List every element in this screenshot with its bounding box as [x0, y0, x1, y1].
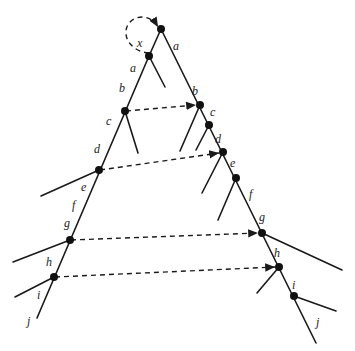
edge-label: h	[274, 246, 280, 260]
edge-label: i	[37, 288, 40, 302]
dashed-arrow	[55, 267, 275, 277]
tree-edge	[149, 29, 161, 56]
edge-label: c	[210, 105, 216, 119]
edge-label: j	[25, 314, 31, 328]
edge-label: i	[292, 278, 295, 292]
edge-label: e	[230, 156, 236, 170]
edge-label: a	[130, 61, 136, 75]
tree-node	[232, 174, 240, 182]
edge-label: f	[72, 198, 77, 212]
tree-edge	[218, 178, 236, 220]
edge-label: g	[259, 210, 265, 224]
tree-node	[145, 52, 153, 60]
diagram-canvas: xaabcdefghijbcdefghij	[0, 0, 355, 351]
tree-node	[95, 166, 103, 174]
tree-node	[290, 292, 298, 300]
tree-edge	[180, 105, 200, 151]
tree-nodes	[50, 25, 298, 300]
tree-node	[205, 121, 213, 129]
edge-label: b	[119, 81, 125, 95]
tree-edge	[257, 267, 279, 293]
edge-label: b	[192, 84, 198, 98]
tree-node	[121, 107, 129, 115]
tree-node	[219, 148, 227, 156]
dashed-arrows	[55, 105, 275, 277]
edge-label: f	[249, 187, 254, 201]
tree-edge	[149, 56, 165, 87]
dashed-arrow	[100, 153, 219, 170]
edge-label: g	[64, 216, 70, 230]
edge-label: h	[46, 255, 52, 269]
tree-node	[157, 25, 165, 33]
tree-diagram: xaabcdefghijbcdefghij	[0, 0, 355, 351]
tree-edge	[196, 125, 209, 150]
edge-label: e	[81, 180, 87, 194]
tree-node	[196, 101, 204, 109]
tree-edge	[125, 111, 138, 153]
tree-edge	[294, 296, 336, 311]
dashed-arrow	[71, 233, 258, 240]
tree-node	[258, 229, 266, 237]
dashed-arrow	[126, 105, 196, 111]
tree-edge	[13, 240, 70, 262]
edge-label: x	[136, 36, 143, 50]
tree-edge	[202, 152, 223, 193]
tree-node	[50, 273, 58, 281]
edge-label: a	[173, 39, 179, 53]
edge-label: d	[215, 132, 222, 146]
edge-label: j	[314, 315, 320, 329]
tree-node	[275, 263, 283, 271]
tree-node	[66, 236, 74, 244]
edge-label: d	[94, 142, 101, 156]
edge-label: c	[106, 114, 112, 128]
tree-edge	[15, 277, 54, 297]
